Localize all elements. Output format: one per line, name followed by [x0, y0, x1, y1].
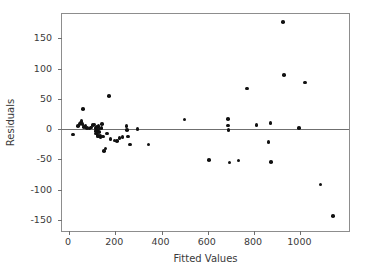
x-axis-tick [162, 231, 163, 235]
y-axis-tick [58, 129, 62, 130]
x-axis-tick-label: 200 [105, 237, 123, 247]
x-axis-tick-label: 800 [244, 237, 262, 247]
y-axis-tick-label: -50 [36, 155, 52, 165]
y-axis-title: Residuals [3, 0, 19, 245]
x-axis-tick-label: 1000 [287, 237, 311, 247]
y-axis-tick [58, 220, 62, 221]
y-axis-tick [58, 159, 62, 160]
y-axis-tick-label: 100 [34, 64, 52, 74]
y-axis-tick [58, 38, 62, 39]
x-axis-title: Fitted Values [61, 253, 350, 264]
x-axis-tick-label: 600 [198, 237, 216, 247]
x-axis-tick [115, 231, 116, 235]
y-axis-title-text: Residuals [6, 99, 17, 146]
y-axis-tick [58, 190, 62, 191]
x-axis-tick [254, 231, 255, 235]
x-axis-tick-label: 400 [151, 237, 169, 247]
y-axis-tick-label: 0 [46, 124, 52, 134]
x-axis-tick [69, 231, 70, 235]
y-axis-tick [58, 69, 62, 70]
y-axis-tick-label: 150 [34, 33, 52, 43]
y-tick-label-group: 150100500-50-100-150 [62, 14, 349, 231]
residual-plot-figure: Residuals 150100500-50-100-150 020040060… [0, 0, 365, 276]
y-axis-tick-label: -100 [30, 185, 52, 195]
x-axis-tick [300, 231, 301, 235]
plot-frame: 150100500-50-100-150 [61, 13, 350, 232]
y-axis-tick [58, 99, 62, 100]
x-axis-tick-label: 0 [65, 237, 71, 247]
y-axis-tick-label: -150 [30, 215, 52, 225]
y-axis-tick-label: 50 [40, 94, 52, 104]
x-axis-tick [208, 231, 209, 235]
